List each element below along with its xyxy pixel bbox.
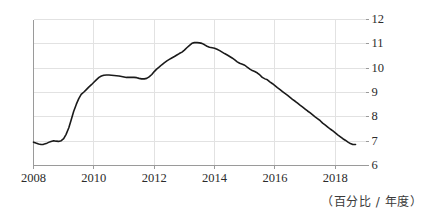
y-axis-tick-label: 6 xyxy=(372,159,378,172)
y-axis-tick-label: 8 xyxy=(372,110,378,123)
horizontal-gridlines xyxy=(34,20,366,142)
data-series-group xyxy=(34,43,356,145)
unit-caption: （百分比 / 年度） xyxy=(321,192,422,209)
x-axis-tick-label: 2018 xyxy=(312,172,358,185)
y-axis-tick-label: 7 xyxy=(372,135,378,148)
x-axis-tick-label: 2012 xyxy=(131,172,177,185)
x-axis-tick-label: 2016 xyxy=(252,172,298,185)
x-axis-tick-label: 2010 xyxy=(71,172,117,185)
line-chart-figure: 1211109876 200820102012201420162018 （百分比… xyxy=(0,0,428,215)
x-axis-tick-label: 2008 xyxy=(11,172,57,185)
x-axis-tick-label: 2014 xyxy=(192,172,238,185)
data-series-line xyxy=(34,43,356,145)
y-axis-tick-label: 9 xyxy=(372,86,378,99)
y-axis-tick-label: 12 xyxy=(372,13,385,26)
y-axis-tick-label: 10 xyxy=(372,62,385,75)
y-axis-tick-label: 11 xyxy=(372,37,384,50)
axis-tick-marks xyxy=(34,20,370,170)
